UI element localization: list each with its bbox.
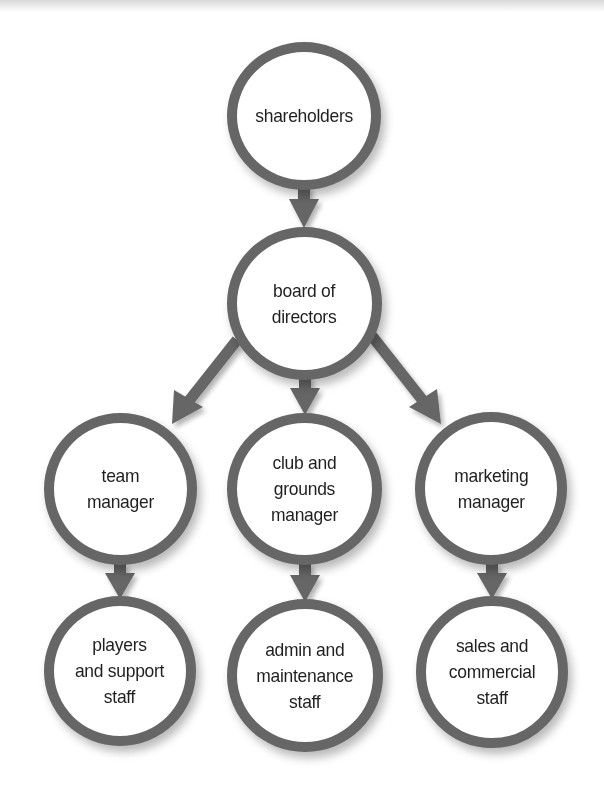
node-shareholders: shareholders (227, 42, 381, 190)
node-label: board of directors (272, 278, 337, 330)
arrow-team-manager-to-players (105, 563, 135, 599)
node-label: shareholders (255, 103, 353, 129)
arrow-marketing-to-sales (477, 563, 507, 599)
node-label: team manager (87, 463, 154, 515)
node-label: admin and maintenance staff (256, 637, 353, 715)
node-team-manager: team manager (44, 413, 197, 565)
arrow-board-to-club-grounds-manager (290, 376, 320, 415)
node-club-and-grounds-manager: club and grounds manager (227, 413, 382, 565)
node-sales-and-commercial-staff: sales and commercial staff (416, 596, 568, 748)
node-admin-and-maintenance-staff: admin and maintenance staff (227, 599, 383, 752)
arrow-shareholders-to-board (289, 186, 319, 228)
node-marketing-manager: marketing manager (415, 412, 567, 565)
node-label: marketing manager (454, 463, 528, 515)
node-board-of-directors: board of directors (227, 227, 382, 380)
arrow-club-grounds-to-admin (290, 563, 320, 602)
node-label: players and support staff (75, 632, 164, 710)
arrow-board-to-marketing-manager (372, 336, 441, 424)
node-label: club and grounds manager (271, 450, 338, 528)
node-label: sales and commercial staff (449, 633, 536, 711)
node-players-and-support-staff: players and support staff (44, 596, 196, 746)
arrow-board-to-team-manager (172, 340, 237, 424)
